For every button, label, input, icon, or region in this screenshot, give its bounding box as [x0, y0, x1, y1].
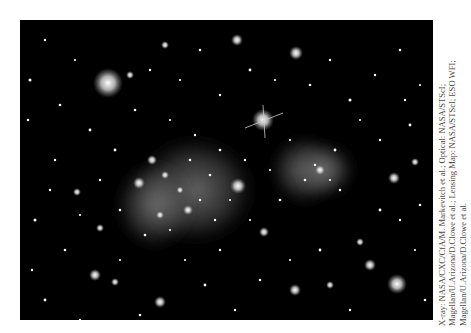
image-credit: X-ray: NASA/CXC/CfA/M. Markevitch et al.…	[437, 6, 468, 326]
credit-line: Magellan/U.Arizona/D.Clowe et al.; Lensi…	[447, 6, 457, 326]
bright-star	[252, 109, 274, 131]
credit-line: X-ray: NASA/CXC/CfA/M. Markevitch et al.…	[437, 6, 447, 326]
credit-line: Magellan/U.Arizona/D.Clowe et al.	[458, 6, 468, 326]
galaxy-cluster-image	[20, 20, 433, 320]
star-field	[20, 20, 433, 320]
bright-star	[93, 68, 123, 98]
